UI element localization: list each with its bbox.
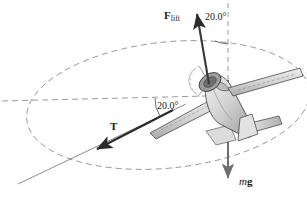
angle-thrust-label: 20.0° xyxy=(157,101,179,111)
physics-diagram-figure: Flift 20.0° 20.0° T mg xyxy=(0,0,307,201)
lift-force-label: Flift xyxy=(164,10,180,23)
diagram-canvas xyxy=(0,0,307,201)
lift-subscript: lift xyxy=(171,14,180,23)
airplane-vertical-stabilizer xyxy=(238,114,258,141)
angle-lift-label: 20.0° xyxy=(205,12,227,22)
airplane-right-wing xyxy=(228,68,303,96)
lift-force-vector xyxy=(197,14,209,84)
gravity-symbol: g xyxy=(247,175,253,187)
thrust-force-label: T xyxy=(110,121,117,132)
lift-symbol: F xyxy=(164,9,171,21)
weight-force-label: mg xyxy=(239,176,252,187)
mass-symbol: m xyxy=(239,175,247,187)
